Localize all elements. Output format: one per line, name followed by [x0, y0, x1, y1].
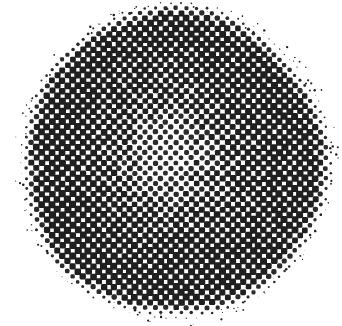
halftone-image-stage: Halftone dot disk	[0, 0, 342, 326]
halftone-disk-canvas	[0, 0, 342, 326]
